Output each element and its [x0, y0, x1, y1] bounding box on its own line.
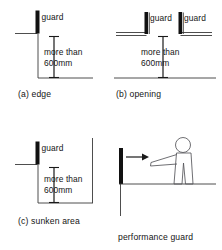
panel-d-guard-bar: [119, 148, 123, 184]
panel-b-dimension-text-line1: more than: [141, 47, 180, 57]
panel-b-guard-bar-left: [145, 12, 149, 34]
panel-b-guard-bar-right: [179, 12, 183, 34]
panel-d-figure-arm: [151, 155, 178, 167]
panel-d-figure-head: [176, 138, 191, 153]
panel-d-caption: performance guard: [118, 232, 193, 242]
panel-a-guard-bar: [36, 11, 40, 34]
panel-c-dimension-text-line1: more than: [44, 174, 83, 184]
panel-c-dimension-text-line2: 600mm: [44, 185, 72, 195]
guard-diagram-figure: guard more than 600mm (a) edge guard gua…: [0, 0, 222, 250]
panel-a-caption: (a) edge: [18, 89, 51, 99]
panel-a-dimension-text-line1: more than: [44, 47, 83, 57]
panel-a-guard-label: guard: [42, 12, 64, 22]
panel-c-sunken-area: guard more than 600mm (c) sunken area: [15, 138, 93, 226]
panel-b-dimension-text-line2: 600mm: [141, 58, 169, 68]
panel-b-opening: guard guard more than 600mm (b) opening: [114, 12, 216, 99]
panel-d-reach-arrow-head: [142, 154, 149, 161]
panel-c-caption: (c) sunken area: [18, 216, 80, 226]
diagram-canvas: guard more than 600mm (a) edge guard gua…: [0, 0, 222, 250]
panel-c-guard-label: guard: [42, 143, 64, 153]
panel-d-figure-body: [174, 153, 193, 184]
panel-a-edge: guard more than 600mm (a) edge: [15, 11, 93, 100]
panel-a-dimension-text-line2: 600mm: [44, 58, 72, 68]
panel-b-guard-label-right: guard: [184, 13, 206, 23]
panel-c-guard-bar: [36, 142, 40, 165]
panel-d-performance-guard: performance guard: [118, 138, 216, 243]
panel-b-guard-label-left: guard: [150, 13, 172, 23]
panel-b-caption: (b) opening: [116, 89, 161, 99]
